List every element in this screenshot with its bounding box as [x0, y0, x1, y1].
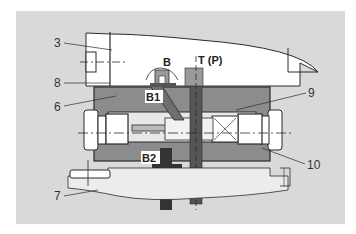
valve-cross-section-diagram: 3 8 6 7 9 10 B T (P) B1 B2	[0, 0, 356, 234]
label-part-8: 8	[54, 76, 61, 90]
label-part-7: 7	[54, 189, 61, 203]
label-port-b1: B1	[146, 91, 160, 103]
label-part-9: 9	[308, 86, 315, 100]
label-part-3: 3	[54, 36, 61, 50]
label-part-10: 10	[307, 158, 321, 172]
label-port-t-p: T (P)	[198, 54, 223, 66]
left-end-cap	[84, 110, 98, 150]
label-part-6: 6	[54, 100, 61, 114]
label-port-b: B	[163, 56, 171, 68]
right-end-cap	[268, 110, 282, 150]
label-port-b2: B2	[142, 152, 156, 164]
